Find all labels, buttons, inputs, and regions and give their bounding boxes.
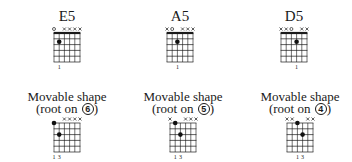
fingering-number: 1 <box>296 154 299 160</box>
chord-diagram: 1 <box>274 24 314 74</box>
finger-dot <box>175 39 180 44</box>
chord-subtitle: (root on 5) <box>128 103 238 115</box>
muted-string-marker <box>285 28 288 31</box>
subtitle-text: (root on <box>269 101 314 116</box>
chord-title: E5 <box>12 9 122 24</box>
finger-dot <box>178 132 183 137</box>
chord-subtitle: (root on 6) <box>12 103 122 115</box>
muted-string-marker <box>181 28 184 31</box>
fingering-number: 1 <box>176 64 179 70</box>
subtitle-end: ) <box>327 101 331 116</box>
finger-dot <box>295 121 300 126</box>
subtitle-end: ) <box>210 101 214 116</box>
muted-string-marker <box>312 118 315 121</box>
subtitle-end: ) <box>94 101 98 116</box>
chord-movable-root-6: Movable shape (root on 6) 13 <box>12 90 122 161</box>
finger-dot <box>57 39 62 44</box>
fingering-number: 1 <box>174 154 177 160</box>
muted-string-marker <box>79 28 82 31</box>
finger-dot <box>294 39 299 44</box>
subtitle-text: (root on <box>152 101 197 116</box>
open-string-marker <box>290 28 293 31</box>
muted-string-marker <box>286 118 289 121</box>
circled-string-number: 4 <box>315 103 327 115</box>
chord-diagram: 13 <box>280 115 320 161</box>
muted-string-marker <box>169 118 172 121</box>
chord-title: A5 <box>125 9 235 24</box>
muted-string-marker <box>68 28 71 31</box>
finger-dot <box>173 121 178 126</box>
finger-dot <box>52 121 57 126</box>
muted-string-marker <box>291 118 294 121</box>
fingering-number: 1 <box>295 64 298 70</box>
fingering-number: 3 <box>58 154 61 160</box>
chord-diagram: 1 <box>160 24 200 74</box>
muted-string-marker <box>300 28 303 31</box>
chord-diagram: 1 <box>47 24 87 74</box>
muted-string-marker <box>73 118 76 121</box>
muted-string-marker <box>166 28 169 31</box>
fingering-number: 3 <box>301 154 304 160</box>
chord-movable-root-5: Movable shape (root on 5) 13 <box>128 90 238 161</box>
muted-string-marker <box>280 28 283 31</box>
muted-string-marker <box>63 28 66 31</box>
chord-d5: D5 1 <box>239 9 349 74</box>
muted-string-marker <box>192 28 195 31</box>
fingering-number: 3 <box>179 154 182 160</box>
fingering-number: 1 <box>53 154 56 160</box>
muted-string-marker <box>79 118 82 121</box>
chord-a5: A5 1 <box>125 9 235 74</box>
muted-string-marker <box>184 118 187 121</box>
fingering-number: 1 <box>58 64 61 70</box>
chord-e5: E5 1 <box>12 9 122 74</box>
finger-dot <box>300 132 305 137</box>
muted-string-marker <box>306 28 309 31</box>
muted-string-marker <box>189 118 192 121</box>
open-string-marker <box>53 28 56 31</box>
chord-title: D5 <box>239 9 349 24</box>
chord-diagram: 13 <box>47 115 87 161</box>
finger-dot <box>57 132 62 137</box>
muted-string-marker <box>68 118 71 121</box>
circled-string-number: 5 <box>198 103 210 115</box>
muted-string-marker <box>195 118 198 121</box>
muted-string-marker <box>63 118 66 121</box>
circled-string-number: 6 <box>82 103 94 115</box>
chord-subtitle: (root on 4) <box>245 103 352 115</box>
chord-movable-root-4: Movable shape (root on 4) 13 <box>245 90 352 161</box>
muted-string-marker <box>73 28 76 31</box>
open-string-marker <box>171 28 174 31</box>
subtitle-text: (root on <box>36 101 81 116</box>
muted-string-marker <box>186 28 189 31</box>
chord-diagram: 13 <box>163 115 203 161</box>
muted-string-marker <box>306 118 309 121</box>
